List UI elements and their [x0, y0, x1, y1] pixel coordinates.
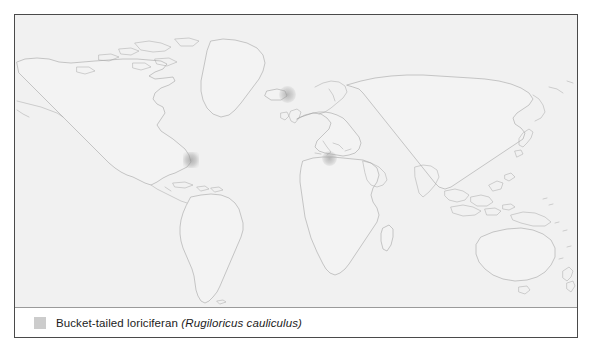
landmass-africa: [300, 157, 379, 275]
landmass-greenland: [201, 39, 265, 117]
landmass-iceland: [265, 89, 287, 100]
map-legend: Bucket-tailed loriciferan (Rugiloricus c…: [15, 308, 577, 337]
world-map-area: [15, 15, 577, 307]
landmass-north-america: [17, 58, 191, 185]
landmass-new-guinea: [511, 212, 551, 226]
landmass-australia: [476, 228, 555, 281]
landmass-caribbean: [173, 182, 223, 192]
legend-species-label: Bucket-tailed loriciferan (Rugiloricus c…: [56, 317, 302, 329]
distribution-map-figure: Bucket-tailed loriciferan (Rugiloricus c…: [14, 14, 578, 338]
landmass-falklands: [217, 300, 226, 304]
world-map-svg: [15, 15, 577, 307]
landmass-kamchatka: [533, 81, 573, 121]
legend-common-name: Bucket-tailed loriciferan: [56, 317, 178, 329]
landmass-scandinavia: [315, 81, 347, 114]
landmass-south-america: [180, 194, 243, 303]
landmass-new-zealand: [563, 267, 575, 292]
legend-scientific-name: (Rugiloricus cauliculus): [181, 317, 302, 329]
legend-color-swatch: [34, 317, 46, 329]
landmass-british-isles: [281, 109, 301, 123]
landmass-tasmania: [519, 286, 530, 294]
landmass-madagascar: [381, 225, 393, 251]
